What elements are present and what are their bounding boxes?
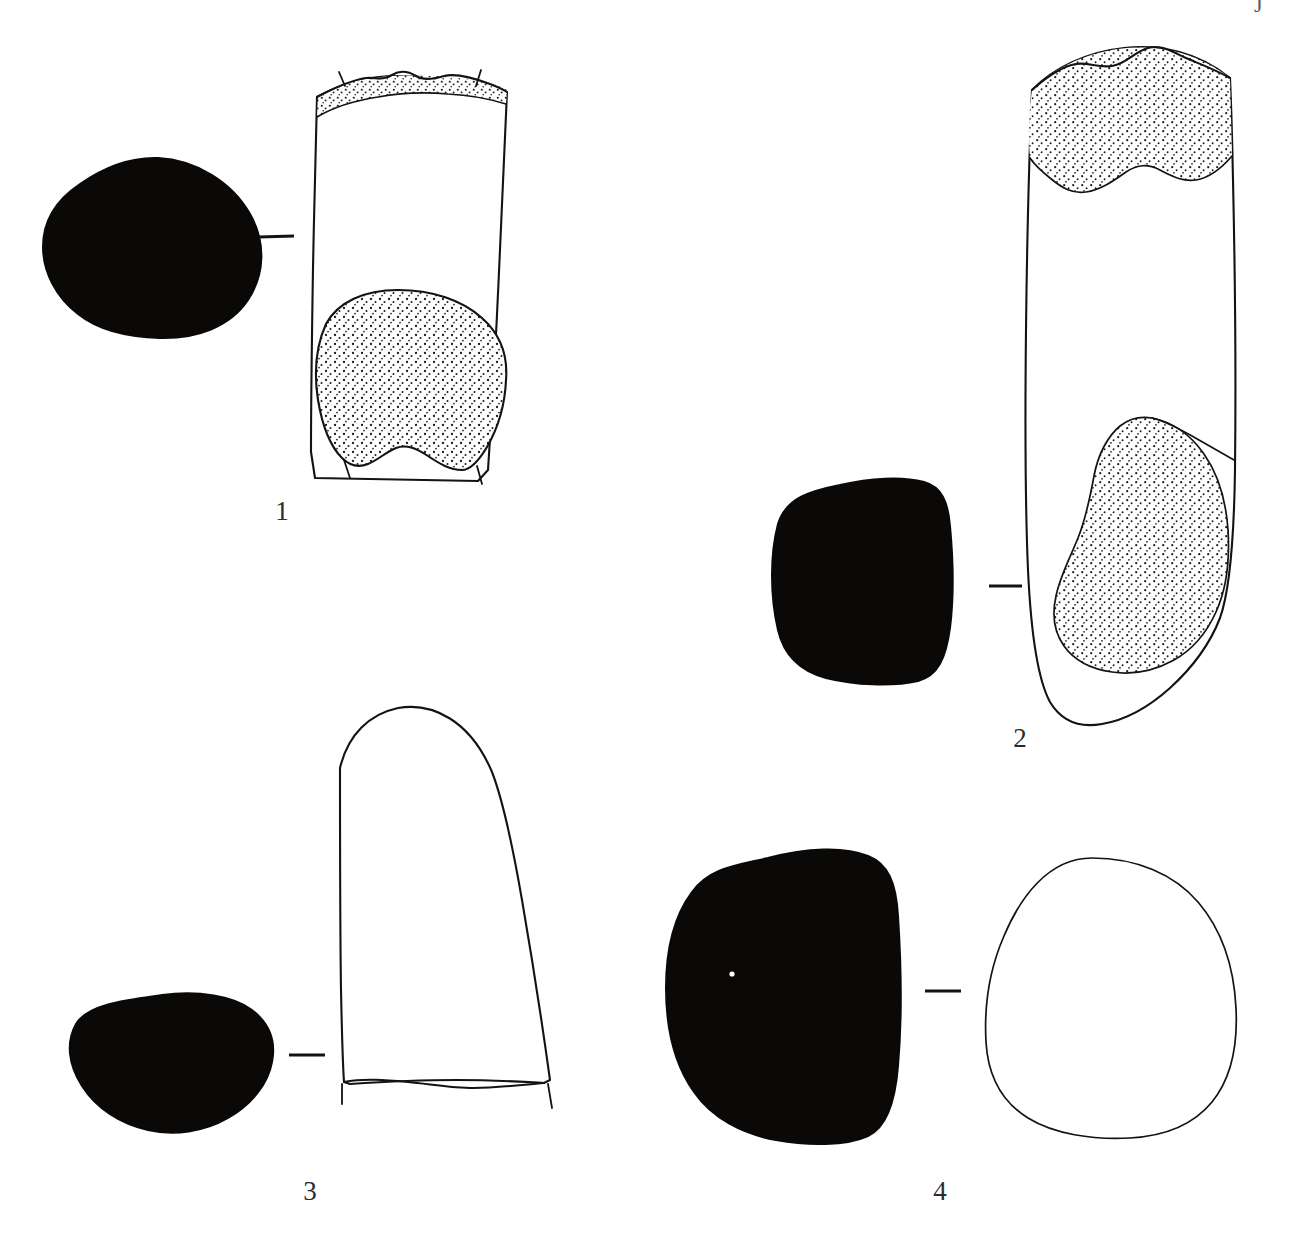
cross-section-4 — [666, 849, 901, 1144]
connector-dash-1 — [259, 236, 294, 237]
profile-4-outline — [986, 858, 1237, 1138]
artifact-plate: J — [0, 0, 1309, 1244]
figure-3-label: 3 — [290, 1178, 330, 1205]
figure-2-group — [720, 30, 1280, 750]
figure-4-label: 4 — [920, 1178, 960, 1205]
cross-section-2 — [772, 478, 953, 684]
figure-1-label: 1 — [262, 498, 302, 525]
figure-2-label: 2 — [1000, 725, 1040, 752]
figure-3-group — [40, 690, 580, 1120]
profile-1-lower-lobe — [316, 290, 506, 470]
profile-3-outline — [340, 707, 550, 1084]
section-4-speck — [729, 971, 734, 976]
profile-3-break-ticks — [342, 1084, 552, 1108]
corner-page-mark: J — [1254, 0, 1263, 16]
figure-4-group — [640, 840, 1260, 1160]
figure-1-group — [0, 0, 560, 520]
profile-1-top-stipple — [317, 76, 507, 117]
cross-section-3 — [70, 993, 273, 1132]
cross-section-1 — [43, 158, 261, 338]
